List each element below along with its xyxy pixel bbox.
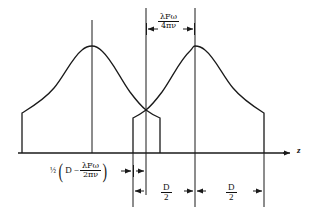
reference-lines-group [92, 8, 195, 153]
top-dimension-denominator: 4πν [158, 22, 179, 30]
pedestal-left-shoulder [133, 110, 146, 153]
right-beam-curve-group [146, 46, 264, 153]
top-dimension-fraction: λFω 4πν [158, 13, 179, 31]
z-axis-label: z [297, 146, 301, 155]
d2-left-fraction: D 2 [161, 183, 172, 203]
pedestal-right-shoulder [146, 110, 160, 153]
extension-lines-group [133, 153, 264, 207]
dimension-label-d-over-2-right: D 2 [226, 183, 237, 203]
d2-left-denominator: 2 [161, 193, 172, 202]
left-gaussian-curve [22, 46, 146, 153]
left-distance-formula: ½ ( D − λFω 2πν ) [50, 162, 108, 180]
right-gaussian-curve [146, 46, 264, 153]
formula-denominator: 2πν [80, 171, 101, 179]
formula-close-paren: ) [102, 163, 107, 179]
top-dimension-label: λFω 4πν [158, 13, 179, 31]
dimension-label-d-over-2-left: D 2 [161, 183, 172, 203]
d2-right-fraction: D 2 [226, 183, 237, 203]
formula-fraction: λFω 2πν [80, 162, 101, 180]
figure-container: z λFω 4πν ½ ( D − λFω 2πν ) D 2 D 2 [0, 0, 315, 213]
d2-right-denominator: 2 [226, 193, 237, 202]
beam-profile-diagram [0, 0, 315, 213]
formula-open-paren: ( [58, 163, 63, 179]
formula-coefficient: ½ [50, 167, 56, 175]
left-beam-curve-group [22, 46, 146, 153]
formula-minus-operator: − [74, 166, 79, 175]
formula-variable-d: D [65, 166, 72, 175]
